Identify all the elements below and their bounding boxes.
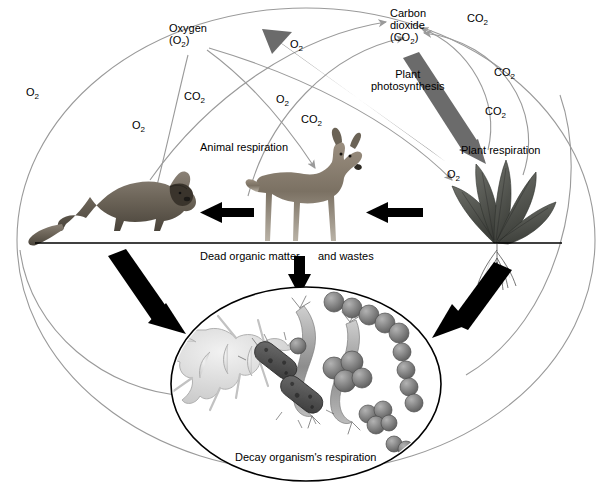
oxygen-line-2: (O2) [169,34,207,51]
gas-label-text: CO [467,12,484,24]
food-chain-arrows [200,202,423,223]
co2-line-2: dioxide [390,19,426,31]
gas-label-subscript: 2 [456,174,460,183]
gas-label-text: CO [485,105,502,117]
gas-label-co2-top-right: CO2 [467,12,488,29]
gas-label-text: CO [301,113,318,125]
arrow-cougar-to-decay [108,249,186,334]
gas-label-subscript: 2 [141,125,145,134]
co2-line-1: Carbon [390,7,426,19]
gas-label-o2-mid-right: O2 [276,93,289,110]
gas-label-o2-to-plant: O2 [447,168,460,185]
gas-label-subscript: 2 [35,92,39,101]
gas-label-subscript: 2 [502,111,506,120]
gas-label-subscript: 2 [484,18,488,27]
gas-label-text: CO [184,90,201,102]
arrow-plant-to-deer [366,202,423,223]
process-label-decay-respiration: Decay organism's respiration [235,451,377,463]
gas-label-o2-top-left: O2 [290,38,303,55]
gas-label-co2-right-lower: CO2 [485,105,506,122]
gas-label-co2-right-upper: CO2 [494,66,515,83]
label-and-wastes: and wastes [318,250,374,262]
arrow-plant-to-decay [432,262,512,338]
gas-label-o2-to-cougar: O2 [132,119,145,136]
oxygen-line-1: Oxygen [169,22,207,34]
co2-line-3: (CO2) [390,31,426,48]
photosynthesis-line-1: Plant [371,68,444,80]
cougar-illustration [28,172,196,246]
gas-label-subscript: 2 [285,99,289,108]
gas-label-text: O [290,38,299,50]
gas-label-text: O [132,119,141,131]
gas-label-co2-left-mid: CO2 [184,90,205,107]
pool-label-carbon-dioxide: Carbon dioxide (CO2) [390,7,426,48]
gas-label-co2-from-cougar: CO2 [301,113,322,130]
gas-label-text: O [276,93,285,105]
photosynthesis-line-2: photosynthesis [371,80,444,92]
gas-label-text: O [26,86,35,98]
label-dead-organic-matter: Dead organic matter [200,250,300,262]
gas-label-text: CO [494,66,511,78]
gas-label-subscript: 2 [201,96,205,105]
pool-label-oxygen: Oxygen (O2) [169,22,207,51]
gas-label-subscript: 2 [318,119,322,128]
gas-label-text: O [447,168,456,180]
process-label-animal-respiration: Animal respiration [200,141,288,153]
gas-label-o2-left-outer: O2 [26,86,39,103]
process-label-plant-respiration: Plant respiration [461,144,541,156]
gas-label-subscript: 2 [511,72,515,81]
ecology-cycle-diagram: Oxygen (O2) Carbon dioxide (CO2) Animal … [0,0,601,502]
arrow-deer-to-cougar [200,202,254,223]
gas-label-subscript: 2 [299,44,303,53]
process-label-plant-photosynthesis: Plant photosynthesis [371,68,444,92]
